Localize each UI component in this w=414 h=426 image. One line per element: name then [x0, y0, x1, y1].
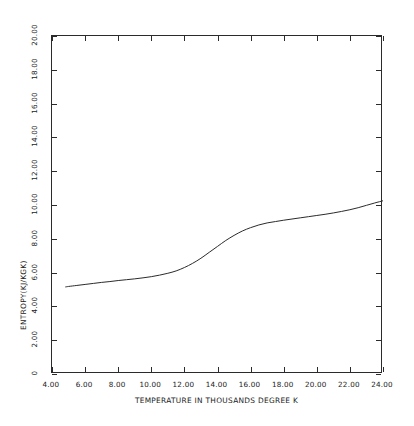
y-tick-label: 18.00 [30, 58, 39, 80]
x-tick-label: 14.00 [206, 380, 228, 389]
x-tick-label: 20.00 [305, 380, 327, 389]
y-tick-left [52, 374, 57, 375]
x-tick-label: 18.00 [272, 380, 294, 389]
y-tick-right [376, 374, 381, 375]
x-tick-label: 10.00 [140, 380, 162, 389]
y-tick-label: 16.00 [30, 92, 39, 114]
y-tick-label: 12.00 [30, 159, 39, 181]
y-tick-label: 0 [30, 371, 39, 376]
entropy-curve [65, 201, 383, 287]
x-tick-label: 12.00 [173, 380, 195, 389]
chart-figure: 02.004.006.008.0010.0012.0014.0016.0018.… [0, 0, 414, 426]
x-tick-label: 8.00 [109, 380, 126, 389]
x-axis-title: TEMPERATURE IN THOUSANDS DEGREE K [51, 396, 382, 405]
plot-area [51, 35, 382, 373]
x-tick-label: 6.00 [76, 380, 93, 389]
x-tick-label: 24.00 [371, 380, 393, 389]
x-tick-bottom [383, 367, 384, 372]
y-tick-label: 6.00 [30, 263, 39, 280]
data-curve-svg [52, 36, 383, 374]
y-tick-label: 2.00 [30, 331, 39, 348]
y-tick-label: 10.00 [30, 193, 39, 215]
y-tick-label: 20.00 [30, 24, 39, 46]
x-tick-label: 16.00 [239, 380, 261, 389]
y-tick-label: 4.00 [30, 297, 39, 314]
y-axis-title: ENTROPY(KJ/KGK) [19, 260, 28, 330]
y-tick-label: 14.00 [30, 126, 39, 148]
x-tick-label: 22.00 [338, 380, 360, 389]
x-tick-label: 4.00 [43, 380, 60, 389]
x-tick-top [383, 36, 384, 41]
y-tick-label: 8.00 [30, 229, 39, 246]
